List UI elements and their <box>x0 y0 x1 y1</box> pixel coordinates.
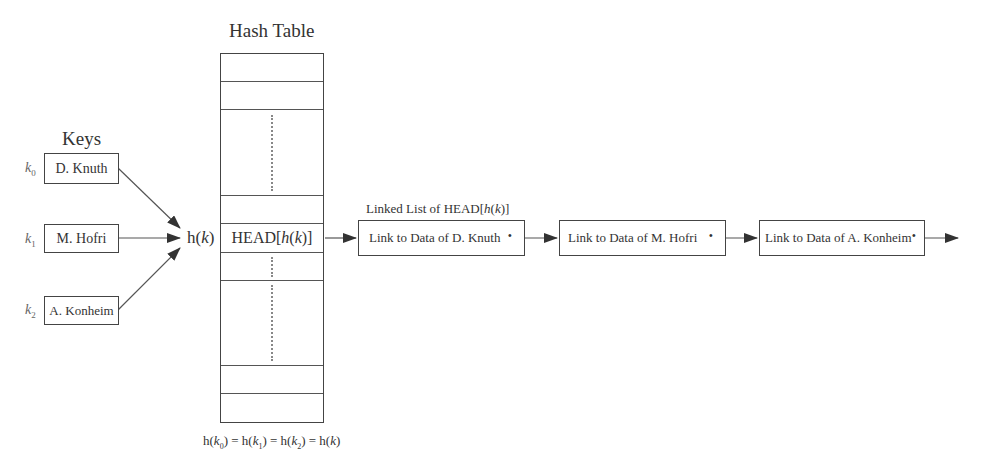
hash-row-divider <box>221 393 323 394</box>
head-cell: HEAD[h(k)] <box>221 224 323 252</box>
ellipsis-dots-upper <box>271 115 273 191</box>
list-node-1: Link to Data of M. Hofri • <box>559 220 726 256</box>
key-name-1: M. Hofri <box>57 231 107 247</box>
ellipsis-dots-lower <box>271 285 273 361</box>
hash-table: HEAD[h(k)] <box>220 53 324 423</box>
key-box-2: A. Konheim <box>44 296 119 325</box>
key-var-0: k0 <box>25 160 36 178</box>
list-node-0: Link to Data of D. Knuth • <box>358 220 525 256</box>
ellipsis-dots-mid <box>271 257 273 277</box>
pointer-dot: • <box>912 229 916 244</box>
list-node-2: Link to Data of A. Konheim • <box>759 220 925 256</box>
hash-row-divider <box>221 195 323 196</box>
key-name-0: D. Knuth <box>55 161 107 177</box>
collision-footnote: h(k0) = h(k1) = h(k2) = h(k) <box>203 433 340 451</box>
list-node-label: Link to Data of D. Knuth <box>369 230 500 246</box>
key-var-2: k2 <box>25 302 36 320</box>
key-box-1: M. Hofri <box>44 224 119 253</box>
hash-row-divider <box>221 280 323 281</box>
hash-row-divider <box>221 365 323 366</box>
hash-row-divider <box>221 81 323 82</box>
linked-list-title: Linked List of HEAD[h(k)] <box>366 201 509 217</box>
key-name-2: A. Konheim <box>49 303 113 319</box>
arrow-k2-to-hash <box>118 248 180 310</box>
hash-table-title: Hash Table <box>229 20 314 42</box>
keys-title: Keys <box>62 128 101 150</box>
arrow-k0-to-hash <box>118 168 180 228</box>
hash-function-label: h(k) <box>187 228 214 248</box>
pointer-dot: • <box>709 229 713 244</box>
key-var-1: k1 <box>25 231 36 249</box>
hash-row-divider <box>221 252 323 253</box>
hash-row-divider <box>221 109 323 110</box>
key-box-0: D. Knuth <box>44 153 119 184</box>
list-node-label: Link to Data of A. Konheim <box>765 230 912 246</box>
pointer-dot: • <box>508 229 512 244</box>
list-node-label: Link to Data of M. Hofri <box>568 230 697 246</box>
